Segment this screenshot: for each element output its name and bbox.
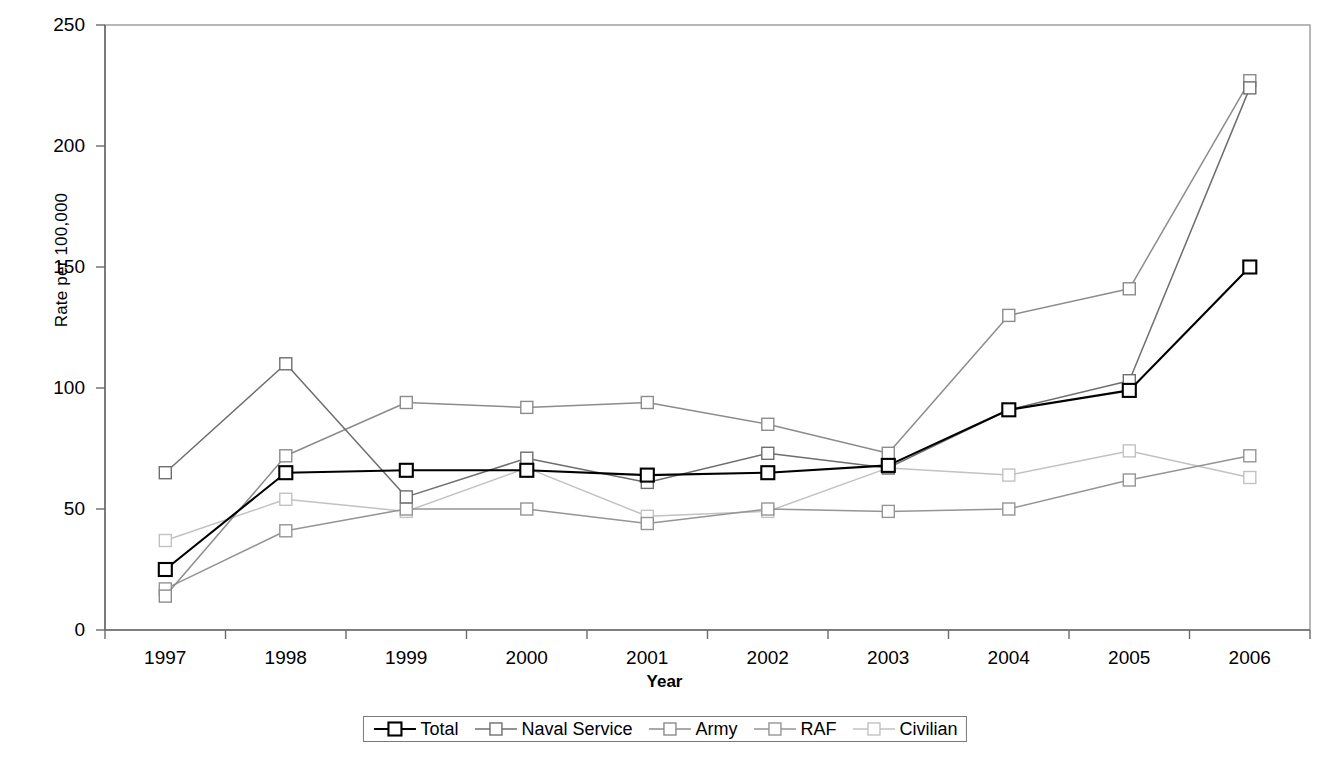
data-point-marker [1244,82,1256,94]
data-point-marker [1243,261,1256,274]
data-point-marker [762,503,774,515]
data-point-marker [882,459,895,472]
x-axis-tick-label: 1997 [105,648,225,667]
line-chart-canvas [0,0,1329,760]
series-line-army [165,81,1250,596]
legend-item-naval-service[interactable]: Naval Service [472,720,632,738]
data-point-marker [280,493,292,505]
data-point-marker [1002,403,1015,416]
chart-legend: TotalNaval ServiceArmyRAFCivilian [362,716,966,742]
data-point-marker [1123,445,1135,457]
plot-area-frame [105,25,1310,630]
legend-label: Naval Service [521,720,632,738]
data-point-marker [400,491,412,503]
y-axis-tick-label: 0 [25,620,85,639]
data-point-marker [400,464,413,477]
legend-key-marker-icon [851,720,897,738]
data-point-marker [1244,450,1256,462]
legend-label: Army [696,720,738,738]
data-point-marker [521,452,533,464]
data-point-marker [159,467,171,479]
legend-key-marker-icon [647,720,693,738]
y-axis-tick-label: 200 [25,136,85,155]
y-axis-tick-label: 100 [25,378,85,397]
data-point-marker [520,464,533,477]
y-axis-tick-label: 50 [25,499,85,518]
data-point-marker [280,525,292,537]
data-point-marker [762,418,774,430]
data-point-marker [1003,469,1015,481]
x-axis-title: Year [0,672,1329,692]
series-line-naval-service [165,88,1250,497]
legend-item-army[interactable]: Army [647,720,738,738]
data-point-marker [1123,474,1135,486]
data-point-marker [400,397,412,409]
legend-key-marker-icon [752,720,798,738]
data-point-marker [521,401,533,413]
x-axis-tick-label: 2006 [1190,648,1310,667]
data-point-marker [280,450,292,462]
data-point-marker [761,466,774,479]
legend-key-marker-icon [472,720,518,738]
data-point-marker [1123,283,1135,295]
series-line-total [165,267,1250,570]
data-point-marker [280,358,292,370]
y-axis-tick-label: 150 [25,257,85,276]
x-axis-tick-label: 2005 [1069,648,1189,667]
legend-item-raf[interactable]: RAF [752,720,837,738]
data-point-marker [1003,503,1015,515]
data-point-marker [641,518,653,530]
x-axis-tick-label: 2000 [467,648,587,667]
data-point-marker [521,503,533,515]
data-point-marker [762,447,774,459]
x-axis-tick-label: 1999 [346,648,466,667]
x-axis-tick-label: 2002 [708,648,828,667]
legend-label: RAF [801,720,837,738]
data-point-marker [400,503,412,515]
legend-item-civilian[interactable]: Civilian [851,720,958,738]
x-axis-tick-label: 1998 [226,648,346,667]
legend-item-total[interactable]: Total [371,720,458,738]
data-point-marker [159,590,171,602]
data-point-marker [641,397,653,409]
data-point-marker [279,466,292,479]
x-axis-tick-label: 2004 [949,648,1069,667]
y-axis-tick-label: 250 [25,15,85,34]
data-point-marker [641,469,654,482]
legend-key-marker-icon [371,720,417,738]
data-point-marker [1244,472,1256,484]
data-point-marker [1123,384,1136,397]
x-axis-tick-label: 2003 [828,648,948,667]
chart-figure: Rate per 100,000 Year 050100150200250 19… [0,0,1329,760]
series-line-raf [165,456,1250,589]
data-point-marker [159,535,171,547]
legend-label: Civilian [900,720,958,738]
data-point-marker [1003,309,1015,321]
data-point-marker [159,563,172,576]
series-line-civilian [165,451,1250,541]
x-axis-tick-label: 2001 [587,648,707,667]
data-point-marker [882,447,894,459]
legend-label: Total [420,720,458,738]
data-point-marker [882,505,894,517]
